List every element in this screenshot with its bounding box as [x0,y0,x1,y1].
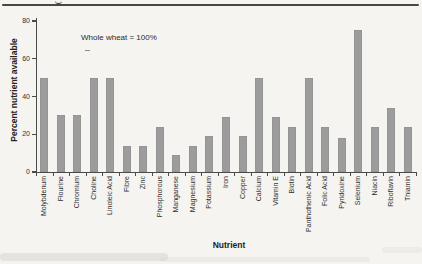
bar [156,127,164,172]
x-category-label: Vitamin E [271,176,281,242]
scan-smudge [0,253,168,261]
x-axis-tick [416,173,417,176]
y-tick-label: 0 [6,168,30,176]
bar [338,138,346,172]
bar [57,115,65,172]
x-category-label: Biotin [287,176,297,242]
x-axis-tick [168,173,169,176]
x-category-label: Molybdenum [39,176,49,242]
x-axis-tick [267,173,268,176]
page-top-rule [2,4,419,6]
bar [404,127,412,172]
x-category-label: Flourine [56,176,66,242]
x-category-label: Pyridoxine [337,176,347,242]
x-category-label: Manganese [171,176,181,242]
bar [272,117,280,172]
x-axis-tick [383,173,384,176]
x-axis-tick [119,173,120,176]
y-tick-label: 20 [6,130,30,138]
bar [123,146,131,172]
x-category-label: Chromium [72,176,82,242]
x-axis-tick [152,173,153,176]
y-tick-label: 60 [6,55,30,63]
x-axis-tick [234,173,235,176]
scan-smudge [160,257,370,262]
x-category-label: Niacin [370,176,380,242]
y-tick-label: 40 [6,93,30,101]
bar [371,127,379,172]
y-tick-label: 80 [6,17,30,25]
x-category-label: Fibre [122,176,132,242]
chart-annotation: Whole wheat = 100% [81,33,157,42]
y-axis-tick [32,20,36,21]
y-axis-tick [32,96,36,97]
x-axis-tick [300,173,301,176]
bar [205,136,213,172]
x-category-label: Phosphorous [155,176,165,242]
bar [255,78,263,172]
bar [139,146,147,172]
x-category-label: Panthothenic Acid [304,176,314,242]
x-axis-tick [86,173,87,176]
bar [354,30,362,172]
x-axis-tick [366,173,367,176]
bar [321,127,329,172]
x-category-label: Choline [89,176,99,242]
x-category-label: Zinc [138,176,148,242]
x-axis-tick [350,173,351,176]
bar [189,146,197,172]
x-axis-tick [284,173,285,176]
x-axis-line [36,172,417,173]
x-axis-title: Nutrient [199,240,259,250]
x-axis-tick [69,173,70,176]
scan-smudge [382,247,422,253]
x-category-label: Thiamin [403,176,413,242]
x-axis-tick [317,173,318,176]
x-category-label: Calcium [254,176,264,242]
x-axis-tick [251,173,252,176]
x-category-label: Linoleic Acid [105,176,115,242]
bar [90,78,98,172]
x-category-label: Copper [238,176,248,242]
bar [288,127,296,172]
x-axis-tick [201,173,202,176]
x-category-label: Iron [221,176,231,242]
x-axis-tick [333,173,334,176]
x-axis-tick [399,173,400,176]
x-axis-tick [185,173,186,176]
bar [387,108,395,172]
x-category-label: Potassium [204,176,214,242]
bar [222,117,230,172]
x-category-label: Folic Acid [320,176,330,242]
x-axis-tick [102,173,103,176]
book-page: Percent nutrient available Whole wheat =… [0,0,422,264]
bar [40,78,48,172]
bar [239,136,247,172]
bar [172,155,180,172]
y-axis-tick [32,58,36,59]
x-category-label: Riboflavin [386,176,396,242]
stray-mark-artifact [85,50,90,51]
x-axis-tick [36,173,37,176]
x-category-label: Magnesium [188,176,198,242]
x-axis-tick [218,173,219,176]
bar [305,78,313,172]
bar [73,115,81,172]
y-axis-line [36,18,37,174]
x-axis-tick [135,173,136,176]
x-category-label: Selenium [353,176,363,242]
y-axis-tick [32,134,36,135]
x-axis-tick [53,173,54,176]
bar [106,78,114,172]
